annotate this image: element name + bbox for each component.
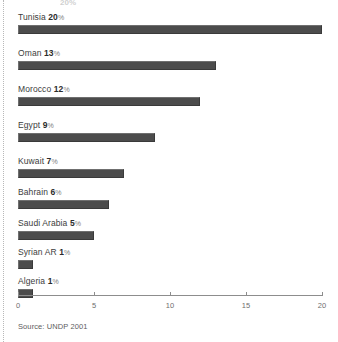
bar-value-percent-symbol: % — [51, 158, 57, 165]
bar-category-name: Egypt — [18, 120, 43, 130]
bar-value-number: 12 — [54, 84, 64, 94]
bar — [18, 260, 33, 269]
bar-row-label: Morocco 12% — [18, 84, 322, 95]
bar-row: Bahrain 6% — [18, 187, 322, 198]
bar-category-name: Oman — [18, 48, 44, 58]
bar-row: Morocco 12% — [18, 84, 322, 95]
bar — [18, 200, 109, 209]
bar — [18, 289, 33, 298]
x-axis-tick — [322, 292, 323, 296]
bar-value-percent-symbol: % — [63, 86, 69, 93]
bar-row-label: Kuwait 7% — [18, 156, 322, 167]
clipped-top-row: 20% — [0, 0, 338, 7]
x-axis-tick — [94, 292, 95, 296]
x-axis: 05101520 — [18, 295, 322, 296]
bar-chart-figure: 20% Tunisia 20%Oman 13%Morocco 12%Egypt … — [0, 0, 338, 342]
bar-value-percent-symbol: % — [54, 50, 60, 57]
bar-row: Algeria 1% — [18, 276, 322, 287]
bar-category-name: Syrian AR — [18, 247, 59, 257]
plot-area: Tunisia 20%Oman 13%Morocco 12%Egypt 9%Ku… — [18, 12, 322, 294]
x-axis-tick — [18, 292, 19, 296]
bar-category-name: Kuwait — [18, 156, 47, 166]
bar-value-percent-symbol: % — [55, 189, 61, 196]
bar — [18, 25, 322, 34]
clipped-value-fragment: 20% — [60, 0, 76, 7]
source-note: Source: UNDP 2001 — [18, 322, 88, 331]
bar-category-name: Bahrain — [18, 187, 50, 197]
bar — [18, 169, 124, 178]
x-axis-tick-label: 5 — [92, 301, 96, 310]
x-axis-tick-label: 10 — [166, 301, 174, 310]
bar-row-label: Oman 13% — [18, 48, 322, 59]
bar-row: Saudi Arabia 5% — [18, 218, 322, 229]
bar-row-label: Algeria 1% — [18, 276, 322, 287]
bar — [18, 133, 155, 142]
bar — [18, 97, 200, 106]
bar-row-label: Saudi Arabia 5% — [18, 218, 322, 229]
bar-row-label: Syrian AR 1% — [18, 247, 322, 258]
bar-row: Tunisia 20% — [18, 12, 322, 23]
bar-value-percent-symbol: % — [52, 278, 58, 285]
bar-category-name: Tunisia — [18, 12, 48, 22]
bar — [18, 231, 94, 240]
page-edge-dotted-rule — [3, 0, 4, 342]
bar-row: Syrian AR 1% — [18, 247, 322, 258]
x-axis-tick-label: 20 — [318, 301, 326, 310]
bar-category-name: Algeria — [18, 276, 48, 286]
x-axis-tick — [170, 292, 171, 296]
bar-value-number: 20 — [48, 12, 58, 22]
bar-row: Egypt 9% — [18, 120, 322, 131]
bar-row-label: Tunisia 20% — [18, 12, 322, 23]
x-axis-tick-label: 0 — [16, 301, 20, 310]
bar — [18, 61, 216, 70]
x-axis-tick-label: 15 — [242, 301, 250, 310]
bar-row-label: Bahrain 6% — [18, 187, 322, 198]
bar-value-number: 13 — [44, 48, 54, 58]
bar-value-percent-symbol: % — [48, 122, 54, 129]
bar-value-percent-symbol: % — [64, 249, 70, 256]
bar-value-percent-symbol: % — [75, 220, 81, 227]
bar-row: Oman 13% — [18, 48, 322, 59]
bar-row: Kuwait 7% — [18, 156, 322, 167]
x-axis-tick — [246, 292, 247, 296]
bar-category-name: Morocco — [18, 84, 54, 94]
bar-row-label: Egypt 9% — [18, 120, 322, 131]
bar-value-percent-symbol: % — [58, 14, 64, 21]
bar-category-name: Saudi Arabia — [18, 218, 70, 228]
